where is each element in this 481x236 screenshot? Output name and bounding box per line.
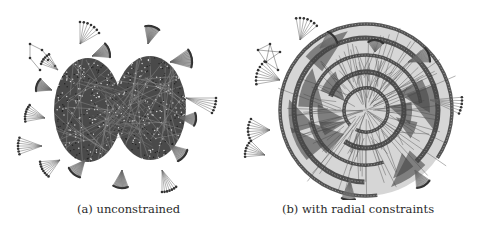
caption-radial: (b) with radial constraints	[282, 202, 434, 216]
leaf-fan	[39, 160, 60, 178]
leaf-fan	[244, 140, 265, 158]
leaf-fan	[161, 170, 178, 193]
leaf-fan	[68, 160, 85, 178]
leaf-fan	[144, 25, 160, 44]
leaf-fan	[40, 53, 58, 70]
leaf-fan	[170, 145, 188, 162]
leaf-fan	[92, 42, 111, 58]
leaf-fan	[79, 21, 101, 44]
graph-drawing-radial	[240, 0, 481, 200]
graph-panel-radial	[240, 0, 481, 200]
leaf-fan	[247, 118, 270, 143]
leaf-fan	[24, 104, 45, 123]
leaf-fan	[112, 170, 129, 189]
leaf-fan	[295, 17, 318, 40]
leaf-fan	[186, 97, 217, 115]
leaf-fan	[35, 78, 52, 92]
graph-panel-unconstrained	[0, 0, 240, 200]
caption-unconstrained: (a) unconstrained	[77, 202, 180, 216]
graph-drawing-unconstrained	[0, 0, 240, 200]
leaf-fan	[17, 136, 42, 155]
leaf-fan	[170, 49, 193, 69]
